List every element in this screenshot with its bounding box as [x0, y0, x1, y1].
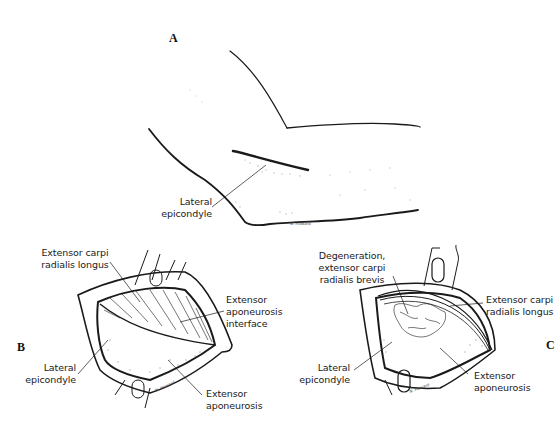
- leader-c-aponeurosis: [440, 348, 468, 374]
- panel-letter-b: B: [17, 340, 25, 355]
- label-c-extensor-aponeurosis: Extensor aponeurosis: [474, 370, 531, 394]
- label-c-lateral-epicondyle: Lateral epicondyle: [292, 362, 350, 386]
- panel-letter-c: C: [546, 338, 555, 353]
- retractor-c-top-blade: [432, 258, 444, 282]
- label-c-degeneration-ecrb: Degeneration, extensor carpi radialis br…: [312, 250, 392, 286]
- label-b-lateral-epicondyle: Lateral epicondyle: [20, 362, 76, 386]
- label-b-ecrl: Extensor carpi radialis longus: [30, 247, 120, 271]
- label-a-lateral-epicondyle: Lateral epicondyle: [160, 196, 212, 220]
- degeneration-area: [394, 304, 446, 337]
- label-b-aponeurosis-interface: Extensor aponeurosis interface: [226, 294, 283, 330]
- retractor-c-bottom-1: [385, 380, 392, 395]
- retractor-c-top-2: [452, 245, 458, 290]
- panel-letter-a: A: [169, 31, 178, 46]
- anatomical-figure: N. Howard: [0, 0, 560, 424]
- label-c-ecrl: Extensor carpi radialis longus: [486, 294, 553, 318]
- label-b-extensor-aponeurosis: Extensor aponeurosis: [206, 388, 263, 412]
- panel-c-exposure-drawing: N. Howard: [0, 0, 560, 424]
